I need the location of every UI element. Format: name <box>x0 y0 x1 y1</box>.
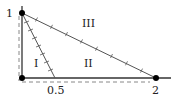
region-label-II: II <box>84 57 93 70</box>
label-two: 2 <box>152 84 159 97</box>
origin-point-dot <box>19 75 25 81</box>
two-point-dot <box>153 75 159 81</box>
top-point-dot <box>19 10 25 16</box>
region-label-III: III <box>82 17 95 30</box>
steep-line <box>22 13 55 78</box>
region-label-I: I <box>34 57 38 70</box>
triangle-diagram: 1 0.5 2 I II III <box>0 0 174 104</box>
label-one: 1 <box>6 7 13 20</box>
label-half: 0.5 <box>47 84 65 97</box>
steep-line-ticks <box>24 21 53 71</box>
